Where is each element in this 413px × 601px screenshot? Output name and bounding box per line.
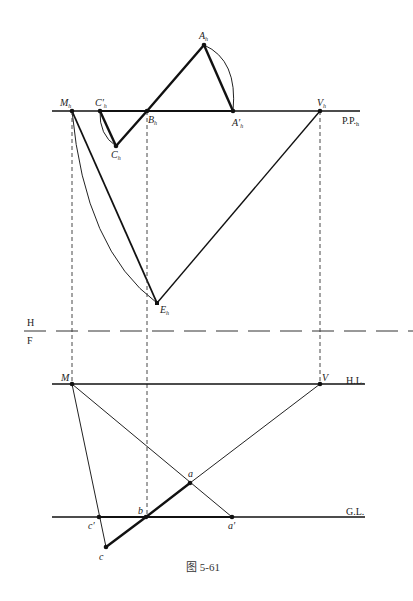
plan-edge-a-b-c	[116, 45, 204, 146]
label-a-h: Ah	[198, 30, 208, 42]
figure-caption: 图 5-61	[186, 561, 220, 573]
label-divider-h: H	[27, 317, 34, 328]
label-divider-f: F	[27, 335, 33, 346]
perspective-diagram: Ah A′h Bh Ch C′h Mh Vh Eh P.P.h H F H.L.…	[0, 0, 413, 601]
label-c: c	[99, 551, 104, 562]
label-picture-plane: P.P.h	[342, 115, 359, 127]
label-v: V	[322, 372, 330, 383]
elevation-points	[70, 382, 323, 550]
label-e-h: Eh	[159, 304, 169, 316]
v-to-a	[190, 384, 320, 483]
label-b-h: Bh	[148, 114, 157, 126]
mh-eh-line	[72, 111, 157, 303]
label-horizon-line: H.L.	[346, 375, 364, 386]
plan-points	[70, 43, 323, 305]
persp-edge-c-b-a	[106, 483, 190, 547]
label-a: a	[188, 468, 193, 479]
label-v-h: Vh	[317, 97, 326, 109]
label-ground-line: G.L.	[346, 506, 364, 517]
label-a-h-prime: A′h	[231, 117, 243, 129]
label-c-h: Ch	[111, 149, 121, 161]
label-c-h-prime: C′h	[95, 97, 107, 109]
label-b: b	[138, 505, 143, 516]
label-c-prime: c′	[88, 520, 95, 531]
label-a-prime: a′	[228, 520, 236, 531]
vh-eh-line	[157, 111, 320, 303]
label-m-h: Mh	[59, 97, 71, 109]
label-m: M	[60, 372, 70, 383]
